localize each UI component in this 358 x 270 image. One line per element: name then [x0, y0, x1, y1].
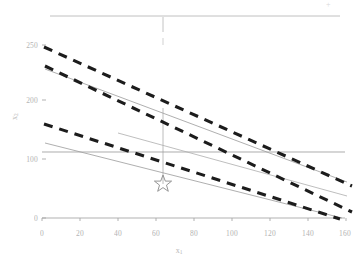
- y-axis-title-text: x: [10, 116, 19, 120]
- x-tick-label-0: 0: [40, 229, 44, 238]
- x-axis-title-subscript: 1: [180, 249, 183, 255]
- corner-mark: +: [326, 0, 331, 9]
- x-tick-label-80: 80: [190, 229, 198, 238]
- x-tick-label-100: 100: [226, 229, 238, 238]
- constraint-thin-3: [118, 133, 347, 196]
- x-tick-label-20: 20: [76, 229, 84, 238]
- y-axis-title: x2: [10, 113, 19, 120]
- x-tick-label-160: 160: [339, 229, 351, 238]
- y-tick-label-100: 100: [20, 155, 38, 164]
- constraint-thin-2: [45, 143, 342, 218]
- y-axis-title-subscript: 2: [13, 113, 19, 116]
- x-tick-label-40: 40: [114, 229, 122, 238]
- x-tick-label-60: 60: [152, 229, 160, 238]
- constraint-dashed-3: [44, 124, 340, 219]
- constraint-dashed-1: [44, 47, 352, 186]
- x-tick-label-120: 120: [264, 229, 276, 238]
- x-axis-title: x1: [176, 246, 183, 255]
- y-tick-label-250: 250: [20, 41, 38, 50]
- y-axis-ticks: [42, 45, 46, 218]
- x-tick-label-140: 140: [302, 229, 314, 238]
- chart-figure: 0 20 40 60 80 100 120 140 160 250 200 10…: [0, 0, 358, 270]
- y-tick-label-200: 200: [20, 96, 38, 105]
- y-tick-label-0: 0: [20, 214, 38, 223]
